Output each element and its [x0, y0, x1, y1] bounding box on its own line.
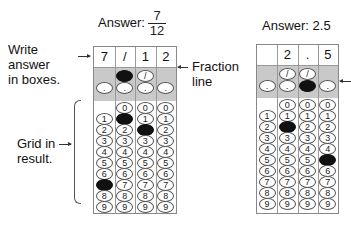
decimal-bubble[interactable]: .	[157, 82, 174, 94]
answer-fraction: 7 12	[148, 9, 166, 38]
digit-bubble-9[interactable]: 9	[116, 201, 133, 213]
decimal-bubble[interactable]: .	[299, 80, 316, 92]
answer-box[interactable]: 1	[135, 47, 156, 68]
grid-column-4: 2.0123456789	[156, 47, 177, 213]
answer-box[interactable]: 2	[277, 45, 297, 66]
decimal-bubble[interactable]: .	[137, 82, 154, 94]
slash-bubble[interactable]: /	[279, 68, 296, 80]
answer-box[interactable]: .	[298, 45, 318, 66]
decimal-bubble[interactable]: .	[279, 80, 296, 92]
decimal-bubble[interactable]: .	[259, 80, 276, 92]
answer-box[interactable]: 7	[94, 47, 115, 68]
digit-bubble-9[interactable]: 9	[319, 198, 336, 210]
write-answer-arrow	[78, 56, 90, 57]
grid-column-3: ./.0123456789	[298, 45, 319, 213]
grid-in-label: Grid in result.	[17, 136, 55, 166]
right-arrow	[340, 81, 351, 82]
answer-box[interactable]	[257, 45, 277, 66]
grid-column-4: 5.0123456789	[318, 45, 338, 213]
digit-bubble-9[interactable]: 9	[279, 198, 296, 210]
answer-box[interactable]: 2	[156, 47, 177, 68]
right-answer-label: Answer: 2.5	[262, 18, 331, 33]
decimal-bubble[interactable]: .	[116, 82, 133, 94]
digit-bubble-9[interactable]: 9	[299, 198, 316, 210]
slash-bubble[interactable]: /	[137, 70, 154, 82]
fraction-line-label: Fraction line	[192, 59, 239, 89]
digit-bubble-9[interactable]: 9	[259, 198, 276, 210]
right-answer-grid: .1234567892/.0123456789./.01234567895.01…	[256, 44, 339, 214]
left-answer-label: Answer:	[98, 15, 145, 30]
grid-column-2: //.0123456789	[115, 47, 137, 213]
answer-box[interactable]: 5	[318, 45, 338, 66]
digit-bubble-9[interactable]: 9	[157, 201, 174, 213]
decimal-bubble[interactable]: .	[96, 82, 113, 94]
slash-bubble[interactable]: /	[299, 68, 316, 80]
grid-column-1: .123456789	[257, 45, 278, 213]
slash-bubble[interactable]: /	[116, 70, 133, 82]
left-answer-grid: 7.123456789//.01234567891/.01234567892.0…	[93, 46, 177, 214]
digit-bubble-9[interactable]: 9	[137, 201, 154, 213]
answer-box[interactable]: /	[115, 47, 136, 68]
digit-bubble-9[interactable]: 9	[96, 201, 113, 213]
decimal-bubble[interactable]: .	[319, 80, 336, 92]
fraction-line-arrow	[178, 67, 188, 68]
grid-brace	[74, 100, 81, 204]
grid-column-1: 7.123456789	[94, 47, 116, 213]
grid-in-arrow	[59, 144, 71, 145]
write-answer-label: Write answer in boxes.	[8, 42, 60, 87]
grid-column-2: 2/.0123456789	[277, 45, 298, 213]
grid-column-3: 1/.0123456789	[135, 47, 157, 213]
